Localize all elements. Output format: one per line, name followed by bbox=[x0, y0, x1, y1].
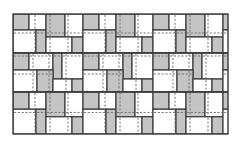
gray-tile bbox=[153, 92, 169, 109]
white-tile bbox=[13, 70, 37, 92]
gray-tile bbox=[106, 109, 116, 134]
white-tile bbox=[123, 79, 142, 92]
gray-tile bbox=[83, 92, 99, 109]
gray-tile bbox=[153, 14, 169, 30]
white-tile bbox=[169, 14, 186, 30]
gray-tile bbox=[116, 92, 135, 117]
white-tile bbox=[0, 53, 13, 79]
gray-tile bbox=[212, 117, 223, 134]
gray-tile bbox=[13, 92, 29, 109]
tile-pattern-diagram bbox=[0, 0, 239, 144]
gray-tile bbox=[142, 37, 153, 53]
white-tile bbox=[223, 70, 239, 92]
white-tile bbox=[53, 79, 72, 92]
white-tile bbox=[153, 30, 176, 53]
white-tile bbox=[83, 30, 106, 53]
white-tile bbox=[83, 70, 107, 92]
white-tile bbox=[193, 79, 212, 92]
white-tile bbox=[153, 70, 177, 92]
gray-tile bbox=[212, 37, 223, 53]
gray-tile bbox=[223, 14, 239, 30]
gray-tile bbox=[107, 70, 123, 92]
white-tile bbox=[205, 14, 223, 37]
white-tile bbox=[13, 30, 36, 53]
gray-tile bbox=[2, 117, 13, 134]
gray-tile bbox=[13, 14, 29, 30]
white-tile bbox=[83, 109, 106, 134]
gray-tile bbox=[177, 70, 193, 92]
gray-tile bbox=[53, 53, 62, 79]
white-tile bbox=[202, 53, 223, 79]
white-tile bbox=[223, 109, 239, 134]
white-tile bbox=[13, 109, 36, 134]
gray-tile bbox=[212, 79, 223, 92]
white-tile bbox=[132, 53, 153, 79]
gray-tile bbox=[46, 92, 65, 117]
white-tile bbox=[169, 92, 186, 109]
white-tile bbox=[62, 53, 83, 79]
tile-grid bbox=[0, 14, 239, 134]
gray-tile bbox=[72, 117, 83, 134]
gray-tile bbox=[142, 117, 153, 134]
gray-tile bbox=[2, 37, 13, 53]
gray-tile bbox=[186, 92, 205, 117]
white-tile bbox=[135, 14, 153, 37]
white-tile bbox=[0, 92, 13, 117]
white-tile bbox=[99, 14, 116, 30]
white-tile bbox=[0, 117, 2, 134]
gray-tile bbox=[116, 14, 135, 37]
gray-tile bbox=[2, 79, 13, 92]
white-tile bbox=[0, 14, 13, 37]
gray-tile bbox=[176, 109, 186, 134]
white-tile bbox=[0, 37, 2, 53]
gray-tile bbox=[83, 14, 99, 30]
gray-tile bbox=[123, 53, 132, 79]
gray-tile bbox=[36, 109, 46, 134]
gray-tile bbox=[72, 79, 83, 92]
white-tile bbox=[65, 14, 83, 37]
gray-tile bbox=[72, 37, 83, 53]
gray-tile bbox=[186, 14, 205, 37]
gray-tile bbox=[142, 79, 153, 92]
gray-tile bbox=[46, 14, 65, 37]
gray-tile bbox=[37, 70, 53, 92]
gray-tile bbox=[193, 53, 202, 79]
white-tile bbox=[99, 92, 116, 109]
white-tile bbox=[29, 14, 46, 30]
white-tile bbox=[0, 79, 2, 92]
white-tile bbox=[29, 92, 46, 109]
white-tile bbox=[153, 109, 176, 134]
gray-tile bbox=[223, 92, 239, 109]
